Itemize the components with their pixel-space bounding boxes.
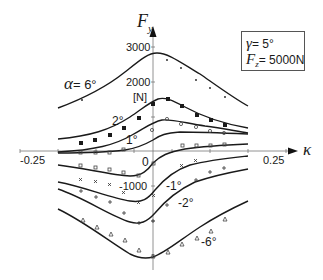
chart-root: Fy κ 3000 2000 [N] 0 -1000 -0.25 0.25 α=… (0, 0, 323, 280)
alpha-m6-label: -6° (201, 236, 216, 248)
legend-box: γ= 5° Fz= 5000N (241, 31, 305, 71)
markers-alpha-6 (81, 59, 226, 101)
x-tick-025: 0.25 (263, 155, 284, 166)
x-axis-label: κ (303, 141, 311, 158)
y-axis-label: Fy (137, 12, 153, 34)
x-axis-arrow-icon (288, 148, 298, 155)
y-unit-label: [N] (133, 92, 147, 103)
alpha-2-label: 2° (112, 115, 123, 127)
alpha-6-label: α= 6° (64, 75, 97, 92)
legend-gamma: γ= 5° (246, 35, 274, 52)
x-tick-minus-025: -0.25 (20, 155, 45, 166)
y-tick-2000: 2000 (126, 77, 150, 88)
y-tick-3000: 3000 (126, 42, 150, 53)
y-tick-0: 0 (142, 156, 149, 168)
alpha-1-label: 1° (126, 134, 137, 146)
y-tick-minus-1000: -1000 (119, 181, 147, 192)
alpha-m2-label: -2° (178, 197, 193, 209)
legend-fz: Fz= 5000N (246, 51, 304, 69)
alpha-m1-label: -1° (166, 180, 181, 192)
